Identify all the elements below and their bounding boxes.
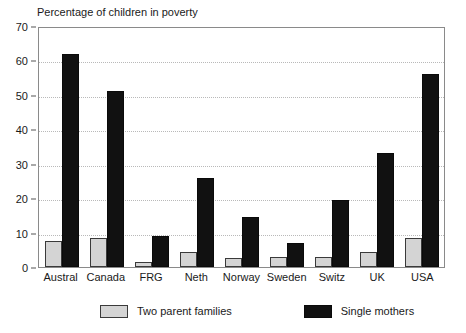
bar-group xyxy=(405,28,439,267)
y-axis-tick-mark xyxy=(31,164,36,165)
x-axis-label-frg: FRG xyxy=(129,270,174,284)
x-axis-label-switz: Switz xyxy=(309,270,354,284)
y-axis-tick-mark xyxy=(31,199,36,200)
bar-norway-two-parent xyxy=(225,258,242,267)
x-axis-label-neth: Neth xyxy=(174,270,219,284)
y-axis-tick-mark xyxy=(31,61,36,62)
poverty-bar-chart: Percentage of children in poverty 010203… xyxy=(0,0,466,333)
bar-sweden-two-parent xyxy=(270,257,287,267)
x-axis-label-norway: Norway xyxy=(219,270,264,284)
legend-entry-two-parent-families[interactable]: Two parent families xyxy=(100,305,232,318)
x-axis-label-austral: Austral xyxy=(38,270,83,284)
x-axis-label-sweden: Sweden xyxy=(264,270,309,284)
legend-entry-single-mothers[interactable]: Single mothers xyxy=(304,305,414,318)
bar-group xyxy=(270,28,304,267)
bar-canada-two-parent xyxy=(90,238,107,267)
legend-label: Two parent families xyxy=(137,305,232,318)
y-axis-tick-label: 60 xyxy=(16,56,28,67)
y-axis-tick-label: 0 xyxy=(22,263,28,274)
bar-austral-single-mothers xyxy=(62,54,79,267)
bar-usa-single-mothers xyxy=(422,74,439,267)
chart-title: Percentage of children in poverty xyxy=(37,6,198,19)
y-axis-tick-label: 10 xyxy=(16,228,28,239)
bar-canada-single-mothers xyxy=(107,91,124,267)
y-axis-tick-label: 70 xyxy=(16,22,28,33)
y-axis-tick-mark xyxy=(31,95,36,96)
legend-swatch-icon xyxy=(304,305,332,318)
bar-norway-single-mothers xyxy=(242,217,259,267)
plot-area xyxy=(38,27,445,268)
bar-group xyxy=(225,28,259,267)
bar-switz-two-parent xyxy=(315,257,332,267)
legend-label: Single mothers xyxy=(341,305,414,318)
bar-uk-two-parent xyxy=(360,252,377,267)
bar-usa-two-parent xyxy=(405,238,422,267)
y-axis-tick-label: 40 xyxy=(16,125,28,136)
bar-group xyxy=(360,28,394,267)
y-axis-tick-mark xyxy=(31,233,36,234)
y-axis-tick-mark xyxy=(31,27,36,28)
bar-frg-single-mothers xyxy=(152,236,169,267)
bar-group xyxy=(180,28,214,267)
bar-frg-two-parent xyxy=(135,262,152,267)
y-axis-tick-label: 50 xyxy=(16,90,28,101)
bar-austral-two-parent xyxy=(45,241,62,268)
y-axis-tick-label: 30 xyxy=(16,159,28,170)
y-axis-tick-label: 20 xyxy=(16,194,28,205)
bars-layer xyxy=(39,28,444,267)
x-axis-label-uk: UK xyxy=(355,270,400,284)
y-axis-tick-mark xyxy=(31,268,36,269)
legend-swatch-icon xyxy=(100,305,128,318)
x-axis-label-canada: Canada xyxy=(83,270,128,284)
y-axis-tick-mark xyxy=(31,130,36,131)
bar-uk-single-mothers xyxy=(377,153,394,267)
bar-group xyxy=(90,28,124,267)
bar-group xyxy=(315,28,349,267)
x-axis-label-usa: USA xyxy=(400,270,445,284)
bar-sweden-single-mothers xyxy=(287,243,304,267)
bar-neth-two-parent xyxy=(180,252,197,267)
bar-neth-single-mothers xyxy=(197,178,214,268)
bar-group xyxy=(45,28,79,267)
bar-switz-single-mothers xyxy=(332,200,349,267)
bar-group xyxy=(135,28,169,267)
chart-legend: Two parent familiesSingle mothers xyxy=(38,300,445,322)
x-axis: AustralCanadaFRGNethNorwaySwedenSwitzUKU… xyxy=(38,270,445,288)
y-axis: 010203040506070 xyxy=(0,20,36,275)
